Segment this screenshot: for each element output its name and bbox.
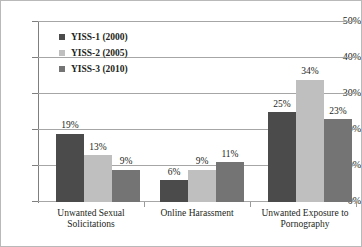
bar-value-label: 9% (112, 156, 140, 166)
category-label: Unwanted Exposure to Pornography (250, 208, 360, 230)
category-divider (144, 202, 145, 207)
bar-value-label: 34% (296, 66, 324, 76)
legend-item: YISS-1 (2000) (59, 29, 128, 45)
bar-value-label: 9% (188, 156, 216, 166)
legend-swatch-icon (59, 50, 65, 56)
bar (188, 170, 216, 202)
bar (216, 162, 244, 202)
bar (84, 155, 112, 202)
category-label-line: Unwanted Exposure to (250, 208, 360, 219)
category-divider (356, 202, 357, 207)
bar-chart: 50% 40% 30% 20% 10% 0% 19% 13% 9% 6% 9% … (0, 0, 362, 247)
gridline (38, 21, 356, 22)
bar-value-label: 11% (216, 149, 244, 159)
bar (324, 119, 352, 202)
legend-label: YISS-3 (2010) (71, 64, 128, 74)
bar-value-label: 13% (84, 142, 112, 152)
bar-value-label: 19% (56, 120, 84, 130)
category-label-line: Unwanted Sexual (38, 208, 144, 219)
category-divider (250, 202, 251, 207)
bar (296, 80, 324, 202)
category-label-line: Pornography (250, 219, 360, 230)
legend-item: YISS-3 (2010) (59, 61, 128, 77)
category-label-line: Online Harassment (144, 208, 250, 219)
legend-label: YISS-1 (2000) (71, 32, 128, 42)
category-label-line: Solicitations (38, 219, 144, 230)
bar (112, 170, 140, 202)
bar-value-label: 23% (324, 106, 352, 116)
legend-swatch-icon (59, 66, 65, 72)
bar (268, 112, 296, 202)
legend-item: YISS-2 (2005) (59, 45, 128, 61)
legend-label: YISS-2 (2005) (71, 48, 128, 58)
bar-value-label: 6% (160, 167, 188, 177)
bar-value-label: 25% (268, 99, 296, 109)
legend-swatch-icon (59, 34, 65, 40)
category-label: Online Harassment (144, 208, 250, 219)
legend: YISS-1 (2000) YISS-2 (2005) YISS-3 (2010… (59, 29, 128, 77)
bar (56, 134, 84, 202)
category-label: Unwanted Sexual Solicitations (38, 208, 144, 230)
bar (160, 180, 188, 202)
